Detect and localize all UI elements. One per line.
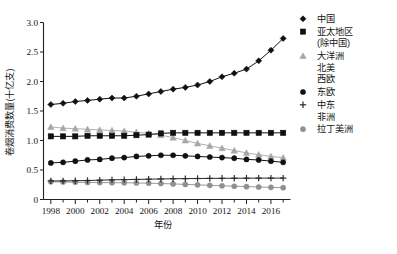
legend-label: 中国: [317, 13, 335, 24]
y-axis-title: 卷烟消费数量(十亿支): [4, 68, 15, 155]
y-axis-tick-label: 3.0: [27, 18, 39, 28]
y-axis-tick-label: 2.0: [27, 77, 39, 87]
y-axis-tick-label: 1.0: [27, 136, 39, 146]
data-point-marker: [60, 134, 65, 139]
x-axis-tick-label: 2010: [188, 206, 207, 216]
data-point-marker: [195, 182, 200, 187]
legend-label: 拉丁美洲: [317, 123, 353, 134]
legend-label: 大洋洲: [317, 50, 344, 61]
data-point-marker: [158, 131, 163, 136]
data-point-marker: [281, 130, 286, 135]
x-axis-tick-label: 2016: [262, 206, 281, 216]
data-point-marker: [109, 156, 114, 161]
x-axis-tick-label: 1998: [42, 206, 61, 216]
line-chart: 00.51.01.52.02.53.0 19982000200220042006…: [0, 0, 397, 254]
data-point-marker: [281, 185, 286, 190]
x-axis-tick-label: 2014: [237, 206, 256, 216]
data-point-marker: [48, 160, 53, 165]
x-axis-tick-label: 2000: [66, 206, 85, 216]
data-point-marker: [158, 153, 163, 158]
data-point-marker: [183, 182, 188, 187]
y-axis-tick-label: 2.5: [27, 47, 39, 57]
y-axis-title-text: 卷烟消费数量(十亿支): [4, 68, 15, 155]
x-axis-tick-label: 2006: [139, 206, 158, 216]
data-point-marker: [85, 157, 90, 162]
data-point-marker: [183, 153, 188, 158]
data-point-marker: [232, 130, 237, 135]
data-point-marker: [134, 154, 139, 159]
data-point-marker: [109, 133, 114, 138]
data-point-marker: [171, 130, 176, 135]
data-point-marker: [256, 184, 261, 189]
x-axis-tick-label: 2012: [213, 206, 232, 216]
data-point-marker: [171, 181, 176, 186]
data-point-marker: [256, 157, 261, 162]
legend-label: 非洲: [317, 111, 335, 122]
legend-label: 西欧: [317, 73, 335, 84]
data-point-marker: [73, 159, 78, 164]
data-point-marker: [146, 132, 151, 137]
data-point-marker: [171, 153, 176, 158]
data-point-marker: [122, 155, 127, 160]
data-point-marker: [85, 133, 90, 138]
data-point-marker: [97, 157, 102, 162]
y-axis-tick-label: 0: [33, 195, 38, 205]
data-point-marker: [300, 127, 305, 132]
data-point-marker: [73, 134, 78, 139]
data-point-marker: [219, 155, 224, 160]
data-point-marker: [60, 160, 65, 165]
data-point-marker: [219, 130, 224, 135]
y-axis-tick-label: 1.5: [27, 106, 39, 116]
data-point-marker: [183, 130, 188, 135]
data-point-marker: [195, 130, 200, 135]
data-point-marker: [207, 154, 212, 159]
data-point-marker: [232, 184, 237, 189]
data-point-marker: [195, 154, 200, 159]
data-point-marker: [122, 133, 127, 138]
data-point-marker: [244, 130, 249, 135]
legend-label: 中东: [317, 99, 335, 110]
data-point-marker: [268, 185, 273, 190]
data-point-marker: [268, 159, 273, 164]
y-axis-tick-label: 0.5: [27, 165, 39, 175]
data-point-marker: [244, 157, 249, 162]
data-point-marker: [207, 183, 212, 188]
data-point-marker: [219, 183, 224, 188]
legend-label: 东欧: [317, 86, 335, 97]
data-point-marker: [244, 184, 249, 189]
x-axis-tick-label: 2002: [91, 206, 110, 216]
x-axis-title: 年份: [154, 219, 173, 230]
data-point-marker: [146, 153, 151, 158]
data-point-marker: [207, 130, 212, 135]
x-axis-tick-label: 2008: [164, 206, 183, 216]
data-point-marker: [48, 134, 53, 139]
data-point-marker: [134, 133, 139, 138]
legend-label: 北美: [317, 62, 335, 73]
x-axis-tick-label: 2004: [115, 206, 134, 216]
legend-label: (除中国): [317, 37, 350, 48]
data-point-marker: [300, 29, 305, 34]
chart-figure: 00.51.01.52.02.53.0 19982000200220042006…: [0, 0, 397, 254]
data-point-marker: [97, 133, 102, 138]
data-point-marker: [281, 160, 286, 165]
data-point-marker: [232, 156, 237, 161]
legend-label: 亚太地区: [317, 26, 353, 37]
data-point-marker: [268, 130, 273, 135]
data-point-marker: [300, 89, 305, 94]
data-point-marker: [256, 130, 261, 135]
